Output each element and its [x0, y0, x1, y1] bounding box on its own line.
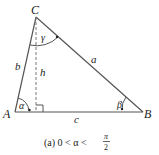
angle-label-beta: β: [116, 99, 122, 110]
caption-text: (a) 0 < α <: [44, 137, 87, 149]
side-label-b: b: [15, 60, 21, 72]
side-label-a: a: [91, 53, 97, 65]
arrow-dot-alpha: [28, 109, 30, 111]
angle-label-alpha: α: [19, 100, 25, 111]
side-label-c: c: [74, 113, 79, 125]
vertex-label-b: B: [144, 107, 152, 121]
vertex-label-c: C: [31, 3, 40, 17]
triangle-diagram: C A B b h a c γ α β (a) 0 < α < π 2: [0, 0, 159, 155]
right-angle-marker: [36, 105, 43, 112]
altitude-label-h: h: [40, 66, 46, 78]
caption-fraction-numerator: π: [104, 132, 109, 141]
angle-label-gamma: γ: [41, 32, 46, 43]
side-a: [36, 17, 143, 112]
vertex-label-a: A: [2, 107, 11, 121]
caption-fraction-denominator: 2: [104, 143, 108, 152]
arrow-dot-gamma: [56, 36, 58, 38]
